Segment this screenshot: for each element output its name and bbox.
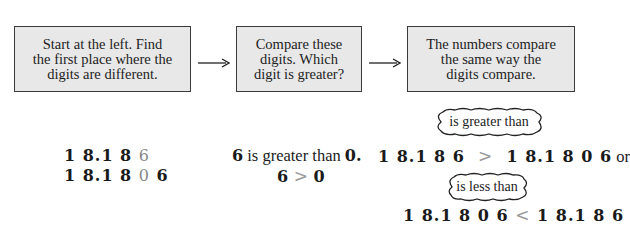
step-box-numbers-compare: The numbers compare the same way the dig… xyxy=(407,26,575,92)
cloud-label-greater: is greater than xyxy=(433,107,545,137)
highlight-digit: 0 xyxy=(139,166,150,185)
step2-line2: digits. Which xyxy=(254,52,344,67)
step2-line1: Compare these xyxy=(254,37,344,52)
step3-line1: The numbers compare xyxy=(426,37,556,52)
step1-line2: the first place where the xyxy=(33,52,172,67)
right-arrow-icon xyxy=(369,58,401,60)
step3-line3: digits compare. xyxy=(426,67,556,82)
right-arrow-icon xyxy=(198,58,230,60)
cloud-label-less: is less than xyxy=(445,172,529,202)
digit-compare-symbolic: 6 > 0 xyxy=(277,166,325,186)
step-box-compare-digits: Compare these digits. Which digit is gre… xyxy=(236,26,362,92)
number-a: 1 8.1 8 6 xyxy=(64,146,150,165)
highlight-digit: 6 xyxy=(139,146,150,165)
result-greater-statement: 1 8.1 8 6 > 1 8.1 8 0 6 or xyxy=(378,146,630,167)
step1-line1: Start at the left. Find xyxy=(33,37,172,52)
step1-line3: digits are different. xyxy=(33,67,172,82)
step3-line2: the same way the xyxy=(426,52,556,67)
step2-line3: digit is greater? xyxy=(254,67,344,82)
number-b: 1 8.1 8 0 6 xyxy=(64,166,169,185)
result-less-statement: 1 8.1 8 0 6 < 1 8.1 8 6 xyxy=(403,205,624,225)
step-box-find-difference: Start at the left. Find the first place … xyxy=(14,26,191,92)
digit-compare-sentence: 6 is greater than 0. xyxy=(232,146,362,166)
